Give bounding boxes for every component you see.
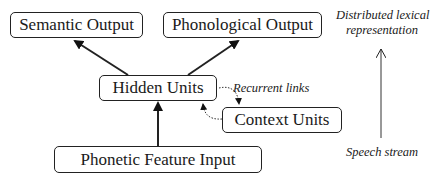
edge-hidden-to-phonological: [188, 41, 238, 75]
distributed-lexical-line1: Distributed lexical: [336, 8, 428, 23]
distributed-lexical-label: Distributed lexical representation: [336, 8, 428, 38]
context-units-node: Context Units: [222, 107, 342, 133]
context-units-label: Context Units: [235, 110, 330, 130]
phonological-output-node: Phonological Output: [163, 12, 322, 38]
edge-hidden-to-semantic: [75, 41, 128, 75]
phonetic-feature-input-node: Phonetic Feature Input: [54, 146, 262, 173]
phonetic-feature-input-label: Phonetic Feature Input: [81, 150, 236, 170]
recurrent-links-label: Recurrent links: [233, 81, 309, 96]
speech-stream-label: Speech stream: [346, 145, 418, 160]
hidden-units-node: Hidden Units: [99, 75, 217, 101]
hidden-units-label: Hidden Units: [112, 78, 203, 98]
edge-recurrent-to-hidden: [203, 104, 222, 119]
semantic-output-label: Semantic Output: [19, 15, 134, 35]
phonological-output-label: Phonological Output: [172, 15, 313, 35]
distributed-lexical-line2: representation: [336, 23, 428, 38]
semantic-output-node: Semantic Output: [10, 12, 143, 38]
